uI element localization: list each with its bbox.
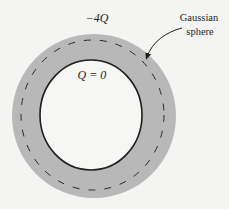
- gaussian-label-line1: Gaussian: [180, 12, 219, 23]
- conducting-shell-diagram: −4Q Q = 0 Gaussian sphere: [0, 0, 229, 209]
- inner-charge-label: Q = 0: [78, 68, 107, 82]
- gaussian-label-line2: sphere: [186, 26, 214, 37]
- bottom-clip: [0, 198, 229, 209]
- outer-charge-label: −4Q: [86, 11, 109, 25]
